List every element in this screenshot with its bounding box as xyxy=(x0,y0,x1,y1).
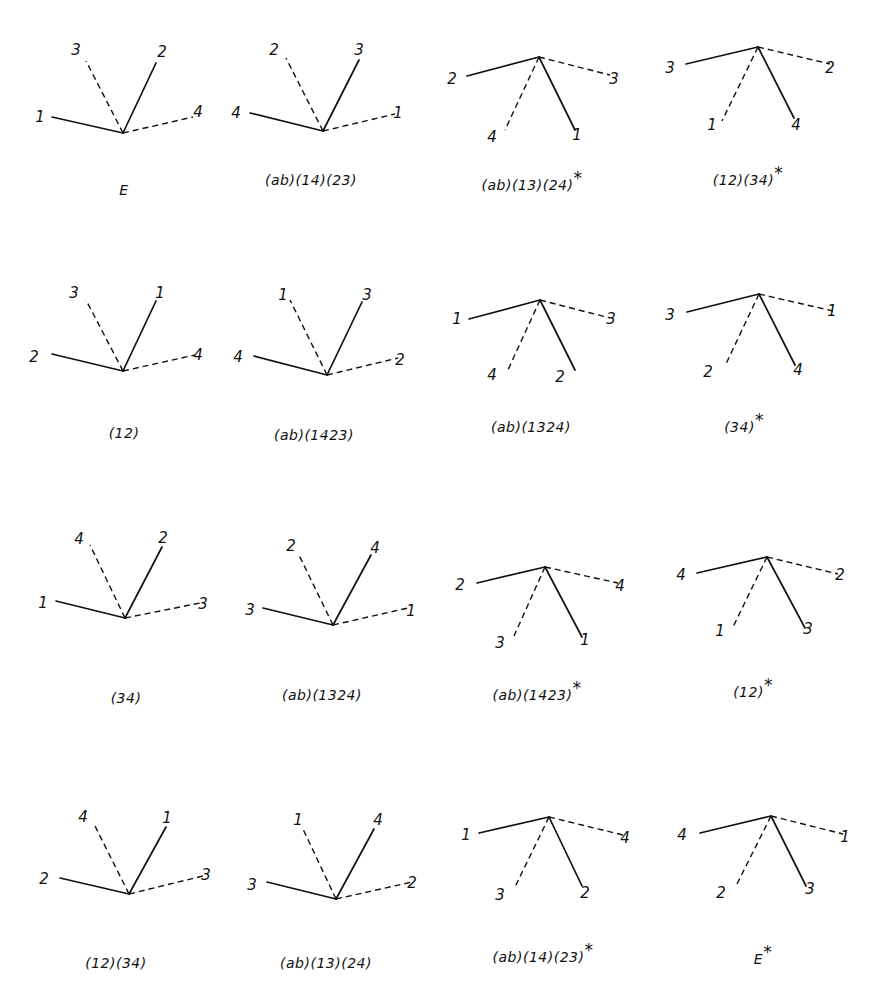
atom-label: 2 xyxy=(395,351,405,369)
solid-bond-4 xyxy=(759,294,795,365)
atom-label: 3 xyxy=(201,866,211,884)
operation-caption: (ab)(14)(23)* xyxy=(493,940,594,965)
atom-label: 4 xyxy=(231,104,241,122)
atom-label: 2 xyxy=(703,363,713,381)
atom-label: 1 xyxy=(572,126,582,144)
dashed-bond-1 xyxy=(290,300,327,375)
inversion-star-icon: * xyxy=(763,942,772,962)
atom-label: 2 xyxy=(555,368,565,386)
atom-label: 4 xyxy=(370,539,380,557)
atom-label: 2 xyxy=(157,43,167,61)
operation-caption: E xyxy=(119,182,128,198)
atom-label: 2 xyxy=(455,576,465,594)
solid-bond-1 xyxy=(469,300,540,319)
operation-caption: (12)(34)* xyxy=(713,163,783,188)
atom-label: 4 xyxy=(676,566,686,584)
solid-bond-3 xyxy=(323,60,359,131)
solid-bond-4 xyxy=(697,557,767,573)
operation-caption: (ab)(1324) xyxy=(491,419,571,435)
panel-7: 1342(ab)(1324) xyxy=(452,300,616,435)
atom-label: 4 xyxy=(620,829,630,847)
atom-label: 1 xyxy=(35,108,45,126)
atom-label: 3 xyxy=(606,310,616,328)
operation-caption: (ab)(1423) xyxy=(274,427,354,443)
atom-label: 4 xyxy=(615,577,625,595)
atom-label: 4 xyxy=(78,808,88,826)
dashed-bond-2 xyxy=(327,358,398,375)
atom-label: 1 xyxy=(393,104,403,122)
operation-caption: (12)(34) xyxy=(85,955,146,971)
inversion-star-icon: * xyxy=(755,410,764,430)
atom-label: 4 xyxy=(193,103,203,121)
solid-bond-3 xyxy=(771,816,806,886)
dashed-bond-4 xyxy=(123,355,195,371)
solid-bond-4 xyxy=(250,113,323,131)
operation-caption: (ab)(1423)* xyxy=(493,678,582,703)
atom-label: 3 xyxy=(495,886,505,904)
solid-bond-2 xyxy=(60,878,129,894)
solid-bond-1 xyxy=(545,567,582,637)
operation-caption: E* xyxy=(754,942,772,967)
atom-label: 3 xyxy=(495,634,505,652)
atom-label: 1 xyxy=(406,602,416,620)
atom-label: 1 xyxy=(278,286,288,304)
solid-bond-2 xyxy=(52,354,123,371)
panel-15: 1432(ab)(14)(23)* xyxy=(461,817,630,965)
atom-label: 1 xyxy=(155,284,165,302)
dashed-bond-1 xyxy=(323,114,395,131)
solid-bond-1 xyxy=(52,117,123,133)
solid-bond-2 xyxy=(467,57,539,76)
panel-2: 4231(ab)(14)(23) xyxy=(231,41,403,188)
atom-label: 2 xyxy=(835,566,845,584)
atom-label: 4 xyxy=(677,826,687,844)
atom-label: 2 xyxy=(716,884,726,902)
dashed-bond-4 xyxy=(94,824,129,894)
dashed-bond-3 xyxy=(129,876,203,894)
atom-label: 2 xyxy=(269,41,279,59)
atom-label: 2 xyxy=(447,70,457,88)
solid-bond-2 xyxy=(540,300,575,370)
panel-1: 1324E xyxy=(35,41,203,198)
dashed-bond-1 xyxy=(302,827,336,899)
atom-label: 3 xyxy=(71,41,81,59)
atom-label: 3 xyxy=(665,306,675,324)
solid-bond-3 xyxy=(686,47,758,64)
solid-bond-4 xyxy=(333,555,371,625)
dashed-bond-4 xyxy=(545,567,618,583)
solid-bond-1 xyxy=(123,301,156,371)
atom-label: 3 xyxy=(247,876,257,894)
solid-bond-4 xyxy=(758,47,794,118)
dashed-bond-1 xyxy=(722,47,758,121)
dashed-bond-2 xyxy=(286,58,323,131)
solid-bond-4 xyxy=(336,829,374,899)
panel-11: 2431(ab)(1423)* xyxy=(455,567,625,703)
dashed-bond-4 xyxy=(507,300,540,372)
solid-bond-3 xyxy=(263,608,333,625)
solid-bond-2 xyxy=(125,547,162,618)
dashed-bond-4 xyxy=(505,57,539,130)
atom-label: 4 xyxy=(487,366,497,384)
atom-label: 1 xyxy=(461,826,471,844)
dashed-bond-4 xyxy=(123,117,193,133)
solid-bond-4 xyxy=(700,816,771,833)
solid-bond-2 xyxy=(477,567,545,583)
atom-label: 3 xyxy=(198,595,208,613)
panel-4: 3214(12)(34)* xyxy=(665,47,835,188)
atom-label: 1 xyxy=(840,828,850,846)
atom-label: 1 xyxy=(580,631,590,649)
solid-bond-3 xyxy=(327,302,362,375)
atom-label: 3 xyxy=(805,880,815,898)
inversion-star-icon: * xyxy=(764,675,773,695)
dashed-bond-3 xyxy=(515,817,549,887)
panel-9: 1423(34) xyxy=(38,529,208,706)
atom-label: 4 xyxy=(233,348,243,366)
atom-label: 3 xyxy=(609,70,619,88)
dashed-bond-2 xyxy=(758,47,830,64)
atom-label: 2 xyxy=(580,884,590,902)
panel-10: 3241(ab)(1324) xyxy=(245,537,416,703)
solid-bond-2 xyxy=(123,63,156,133)
dashed-bond-1 xyxy=(733,557,767,627)
atom-label: 1 xyxy=(293,811,303,829)
atom-label: 1 xyxy=(452,310,462,328)
dashed-bond-4 xyxy=(90,545,125,618)
